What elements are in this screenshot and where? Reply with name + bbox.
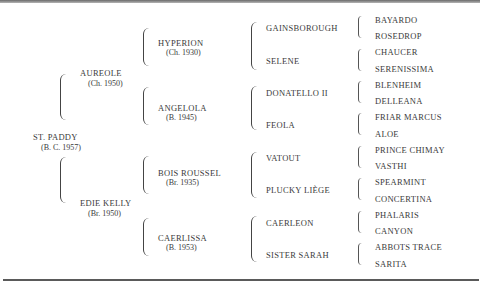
bracket-gen2-1 — [143, 87, 150, 125]
gen4-name: PRINCE CHIMAY — [375, 145, 445, 155]
bracket-gen4-1 — [358, 49, 363, 71]
gen3-name: DONATELLO II — [266, 88, 328, 98]
bracket-gen4-2 — [358, 81, 363, 103]
bracket-gen3-3 — [251, 216, 258, 262]
sire-name: AUREOLE — [80, 68, 122, 78]
gen3-name: SELENE — [266, 56, 299, 66]
gen4-name: VASTHI — [375, 161, 407, 171]
bracket-gen4-0 — [358, 16, 363, 38]
bracket-gen4-4 — [358, 146, 363, 168]
gen4-name: DELLEANA — [375, 96, 423, 106]
bracket-gen4-5 — [358, 178, 363, 200]
top-border — [0, 0, 480, 3]
gen4-name: BAYARDO — [375, 15, 417, 25]
subject-detail: (B. C. 1957) — [41, 143, 81, 153]
gen4-name: ALOE — [375, 129, 399, 139]
bottom-rule — [3, 279, 479, 281]
gen3-name: VATOUT — [266, 153, 301, 163]
gen3-name: GAINSBOROUGH — [266, 23, 338, 33]
gen4-name: SPEARMINT — [375, 177, 426, 187]
gen2-name: HYPERION — [158, 38, 203, 48]
gen2-detail: (Ch. 1930) — [166, 48, 201, 58]
bracket-gen4-3 — [358, 113, 363, 135]
gen4-name: ROSEDROP — [375, 31, 422, 41]
gen2-detail: (B. 1953) — [166, 243, 197, 253]
gen4-name: PHALARIS — [375, 210, 419, 220]
gen3-name: SISTER SARAH — [266, 250, 329, 260]
gen2-detail: (Br. 1935) — [166, 178, 199, 188]
dam-name: EDIE KELLY — [80, 198, 131, 208]
gen4-name: FRIAR MARCUS — [375, 112, 442, 122]
gen2-name: CAERLISSA — [158, 233, 207, 243]
bracket-gen4-7 — [358, 243, 363, 265]
gen4-name: ABBOTS TRACE — [375, 242, 442, 252]
gen3-name: PLUCKY LIÈGE — [266, 185, 330, 195]
bracket-gen3-1 — [251, 86, 258, 130]
gen4-name: SARITA — [375, 259, 407, 269]
gen4-name: CHAUCER — [375, 47, 418, 57]
bracket-gen3-0 — [251, 22, 258, 70]
sire-detail: (Ch. 1950) — [88, 79, 123, 89]
gen4-name: BLENHEIM — [375, 80, 421, 90]
gen2-name: ANGELOLA — [158, 103, 207, 113]
bracket-gen2-2 — [143, 156, 150, 194]
bracket-gen2-0 — [143, 28, 150, 66]
gen4-name: CANYON — [375, 226, 413, 236]
gen4-name: CONCERTINA — [375, 194, 432, 204]
bracket-dam — [60, 157, 67, 203]
bracket-gen4-6 — [358, 211, 363, 233]
bracket-gen2-3 — [143, 218, 150, 256]
dam-detail: (Br. 1950) — [88, 209, 121, 219]
gen2-name: BOIS ROUSSEL — [158, 168, 221, 178]
bracket-gen3-2 — [251, 152, 258, 198]
gen4-name: SERENISSIMA — [375, 64, 434, 74]
gen2-detail: (B. 1945) — [166, 113, 197, 123]
subject-name: ST. PADDY — [33, 132, 78, 142]
bracket-sire — [60, 74, 67, 120]
gen3-name: CAERLEON — [266, 218, 314, 228]
gen3-name: FEOLA — [266, 120, 295, 130]
